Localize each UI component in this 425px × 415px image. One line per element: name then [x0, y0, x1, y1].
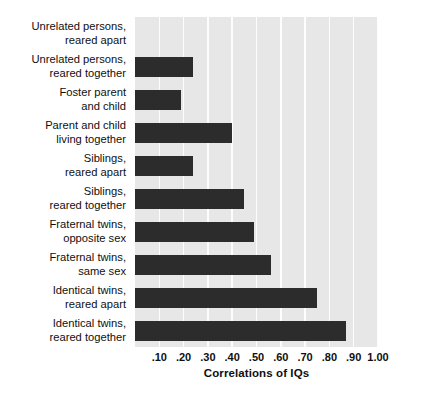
category-label-line: Foster parent	[59, 86, 126, 99]
x-tick-label: .20	[176, 350, 191, 364]
bar-row	[135, 314, 378, 347]
category-label: Parent and childliving together	[0, 116, 131, 149]
category-label-line: Fraternal twins,	[50, 218, 126, 231]
category-label-line: Unrelated persons,	[31, 53, 126, 66]
category-label: Siblings,reared apart	[0, 149, 131, 182]
category-label-line: reared together	[50, 331, 127, 344]
category-label-line: opposite sex	[63, 232, 126, 245]
x-tick-label: .40	[225, 350, 240, 364]
bar	[135, 321, 346, 341]
category-label: Foster parentand child	[0, 83, 131, 116]
category-label-line: and child	[81, 100, 126, 113]
category-label-line: Siblings,	[84, 152, 126, 165]
plot-area	[135, 17, 378, 347]
category-label-line: reared apart	[65, 298, 126, 311]
bar	[135, 57, 193, 77]
category-label-line: Parent and child	[45, 119, 126, 132]
category-label: Fraternal twins,opposite sex	[0, 215, 131, 248]
iq-correlation-bar-chart: Unrelated persons,reared apartUnrelated …	[0, 0, 425, 415]
category-label-line: Identical twins,	[53, 284, 126, 297]
bar	[135, 90, 181, 110]
category-label-line: Identical twins,	[53, 317, 126, 330]
category-label-line: reared together	[50, 67, 127, 80]
bars-layer	[135, 17, 378, 347]
category-label-line: Unrelated persons,	[31, 20, 126, 33]
category-label-line: Fraternal twins,	[50, 251, 126, 264]
category-label-line: reared apart	[65, 34, 126, 47]
bar-row	[135, 50, 378, 83]
category-label: Unrelated persons,reared apart	[0, 17, 131, 50]
bar-row	[135, 281, 378, 314]
bar	[135, 255, 271, 275]
bar-row	[135, 17, 378, 50]
x-tick-label: .90	[346, 350, 361, 364]
bar-row	[135, 248, 378, 281]
x-tick-label: .80	[322, 350, 337, 364]
bar-row	[135, 149, 378, 182]
x-axis-ticks: .10.20.30.40.50.60.70.80.901.00	[135, 350, 378, 366]
x-tick-label: .30	[200, 350, 215, 364]
bar	[135, 222, 254, 242]
category-label-line: reared together	[50, 199, 127, 212]
category-label: Identical twins,reared together	[0, 314, 131, 347]
category-label-line: same sex	[78, 265, 126, 278]
category-label: Fraternal twins,same sex	[0, 248, 131, 281]
bar-row	[135, 83, 378, 116]
bar-row	[135, 182, 378, 215]
category-label: Identical twins,reared apart	[0, 281, 131, 314]
bar	[135, 189, 244, 209]
bar	[135, 156, 193, 176]
category-label: Siblings,reared together	[0, 182, 131, 215]
bar	[135, 288, 317, 308]
x-tick-label: .10	[152, 350, 167, 364]
category-label: Unrelated persons,reared together	[0, 50, 131, 83]
category-axis: Unrelated persons,reared apartUnrelated …	[0, 17, 131, 347]
x-tick-label: .60	[273, 350, 288, 364]
category-label-line: Siblings,	[84, 185, 126, 198]
x-tick-label: .70	[297, 350, 312, 364]
x-tick-label: 1.00	[367, 350, 388, 364]
bar-row	[135, 215, 378, 248]
category-label-line: living together	[56, 133, 126, 146]
bar	[135, 123, 232, 143]
bar-row	[135, 116, 378, 149]
x-tick-label: .50	[249, 350, 264, 364]
category-label-line: reared apart	[65, 166, 126, 179]
x-axis-title: Correlations of IQs	[135, 367, 378, 379]
